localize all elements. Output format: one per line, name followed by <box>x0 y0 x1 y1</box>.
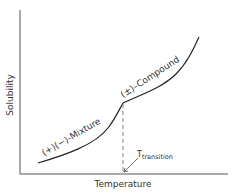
y-axis-label: Solubility <box>5 74 15 116</box>
compound-label: (±)–Compound <box>119 54 181 99</box>
transition-label: Ttransition <box>136 150 173 161</box>
transition-label-sub: transition <box>142 153 173 161</box>
x-axis-label: Temperature <box>93 179 151 189</box>
transition-arrow <box>124 158 138 172</box>
solubility-diagram: (+)(−)-Mixture (±)–Compound Ttransition … <box>0 0 237 195</box>
